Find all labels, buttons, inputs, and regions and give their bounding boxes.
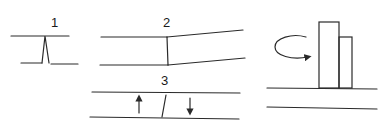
panel-2: 2 <box>100 15 245 65</box>
rotation-arrow-icon <box>275 36 308 58</box>
panel-3-bottom-line <box>90 117 239 119</box>
diagram-canvas: 1 2 3 <box>0 0 385 129</box>
panel-1-wedge <box>42 36 49 63</box>
panel-1: 1 <box>11 15 78 64</box>
panel-1-label: 1 <box>51 15 58 30</box>
tall-block <box>319 22 339 88</box>
panel-2-vertical-junction <box>167 37 168 65</box>
panel-2-top-right-line <box>167 30 243 37</box>
panel-4-base-line <box>267 88 377 89</box>
panel-3-slanted-divider <box>162 95 166 117</box>
panel-2-label: 2 <box>163 15 170 30</box>
panel-3: 3 <box>90 73 240 119</box>
panel-3-label: 3 <box>161 73 168 88</box>
panel-3-top-line <box>92 92 240 93</box>
panel-4-lower-line <box>267 107 377 109</box>
panel-2-bottom-right-line <box>168 58 245 65</box>
short-block <box>339 37 352 88</box>
panel-4 <box>267 22 377 109</box>
